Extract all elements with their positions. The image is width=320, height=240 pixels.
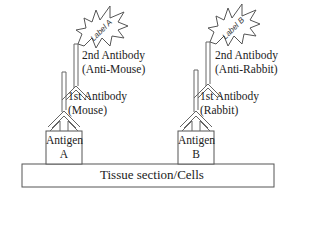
primary-antibody-a-label: 1st Antibody (Mouse) [68,89,127,117]
antigen-b-label: Antigen B [178,133,214,161]
secondary-antibody-a-label: 2nd Antibody (Anti-Mouse) [82,48,145,76]
secondary-antibody-b-label: 2nd Antibody (Anti-Rabbit) [215,48,278,76]
tissue-section-label: Tissue section/Cells [100,168,204,182]
primary-antibody-b-label: 1st Antibody (Rabbit) [200,89,259,117]
antigen-a-label: Antigen A [46,133,82,161]
